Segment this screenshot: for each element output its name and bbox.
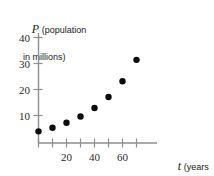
data-point [119, 78, 125, 84]
data-point-group [35, 57, 139, 135]
data-point [105, 94, 111, 100]
x-axis-ticks: 204060 [39, 139, 137, 164]
data-point [77, 113, 83, 119]
data-point [133, 57, 139, 63]
x-tick-label: 40 [89, 151, 101, 163]
y-tick-label: 10 [19, 110, 31, 122]
data-point [35, 128, 41, 134]
chart-screenshot: P (population in millions) t (years sinc… [0, 0, 214, 176]
y-tick-label: 30 [19, 58, 31, 70]
x-tick-label: 60 [117, 151, 129, 163]
scatter-plot: 10203040 204060 [0, 0, 214, 176]
data-point [91, 105, 97, 111]
data-point [63, 120, 69, 126]
y-tick-label: 40 [19, 32, 31, 44]
data-point [49, 125, 55, 131]
y-tick-label: 20 [19, 84, 31, 96]
x-tick-label: 20 [61, 151, 73, 163]
